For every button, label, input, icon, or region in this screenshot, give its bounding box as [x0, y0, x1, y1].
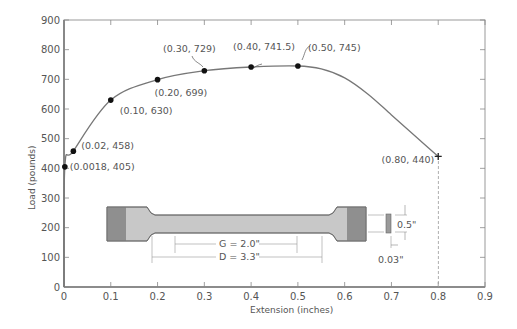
- x-tick-label: 0.4: [243, 291, 259, 302]
- y-tick-label: 600: [41, 104, 60, 115]
- specimen-cross-section: [386, 214, 391, 233]
- point-label: (0.40, 741.5): [233, 41, 295, 52]
- point-labels: (0.0018, 405)(0.02, 458)(0.10, 630)(0.20…: [70, 41, 434, 172]
- data-point-marker: [248, 64, 254, 70]
- y-tick-label: 800: [41, 44, 60, 55]
- y-tick-label: 500: [41, 133, 60, 144]
- y-axis-title: Load (pounds): [27, 145, 37, 210]
- load-extension-chart: 0100200300400500600700800900 00.10.20.30…: [0, 0, 517, 329]
- y-tick-label: 700: [41, 74, 60, 85]
- x-tick-label: 0.2: [150, 291, 166, 302]
- tensile-specimen-diagram: 0.5" 0.03" G = 2.0" D = 3.3": [107, 205, 416, 265]
- gauge-length-label: G = 2.0": [219, 238, 260, 249]
- x-tick-label: 0.8: [430, 291, 446, 302]
- data-point-marker: [62, 164, 68, 170]
- data-point-marker: [108, 97, 114, 103]
- y-tick-label: 300: [41, 193, 60, 204]
- x-tick-label: 0.9: [477, 291, 493, 302]
- data-point-marker: [71, 148, 77, 154]
- specimen-body: [107, 207, 366, 241]
- x-axis-title: Extension (inches): [250, 305, 333, 315]
- point-label: (0.02, 458): [81, 140, 134, 151]
- y-tick-label: 400: [41, 163, 60, 174]
- specimen-grip-left: [107, 207, 126, 241]
- reduced-length-label: D = 3.3": [219, 251, 260, 262]
- x-tick-label: 0.1: [103, 291, 119, 302]
- y-tick-label: 100: [41, 252, 60, 263]
- point-label: (0.50, 745): [308, 42, 361, 53]
- point-label: (0.80, 440): [381, 154, 434, 165]
- y-tick-label: 0: [54, 282, 60, 293]
- y-tick-label: 200: [41, 222, 60, 233]
- x-tick-label: 0.3: [196, 291, 212, 302]
- y-tick-label: 900: [41, 15, 60, 26]
- point-label: (0.30, 729): [163, 43, 216, 54]
- x-tick-label: 0.7: [383, 291, 399, 302]
- specimen-width-label: 0.5": [397, 219, 416, 230]
- point-label: (0.20, 699): [155, 87, 208, 98]
- specimen-grip-right: [347, 207, 366, 241]
- point-label: (0.10, 630): [120, 105, 173, 116]
- data-point-marker: [155, 77, 161, 83]
- leader-arrow-0.30: [192, 56, 203, 67]
- data-point-marker: [295, 63, 301, 69]
- x-tick-label: 0.5: [290, 291, 306, 302]
- point-label: (0.0018, 405): [70, 161, 135, 172]
- x-tick-label: 0.6: [337, 291, 353, 302]
- specimen-thickness-label: 0.03": [378, 254, 404, 265]
- data-point-marker: [202, 68, 208, 74]
- x-tick-label: 0: [61, 291, 67, 302]
